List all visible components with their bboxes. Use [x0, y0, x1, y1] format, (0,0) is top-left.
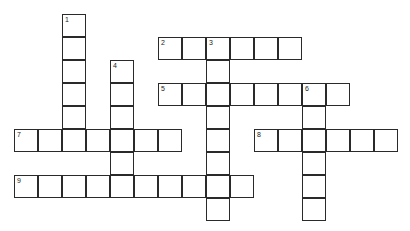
letter-input[interactable] [135, 130, 157, 151]
letter-input[interactable] [207, 176, 229, 197]
crossword-cell[interactable] [62, 175, 86, 198]
letter-input[interactable] [159, 38, 181, 59]
crossword-cell[interactable] [110, 106, 134, 129]
letter-input[interactable] [207, 107, 229, 128]
letter-input[interactable] [255, 130, 277, 151]
crossword-cell[interactable] [302, 129, 326, 152]
crossword-cell[interactable]: 1 [62, 14, 86, 37]
crossword-cell[interactable] [62, 83, 86, 106]
crossword-cell[interactable]: 2 [158, 37, 182, 60]
letter-input[interactable] [351, 130, 373, 151]
crossword-cell[interactable] [110, 175, 134, 198]
crossword-cell[interactable] [230, 175, 254, 198]
letter-input[interactable] [231, 38, 253, 59]
letter-input[interactable] [15, 176, 37, 197]
letter-input[interactable] [111, 107, 133, 128]
letter-input[interactable] [207, 61, 229, 82]
crossword-cell[interactable] [182, 37, 206, 60]
letter-input[interactable] [279, 130, 301, 151]
crossword-cell[interactable]: 5 [158, 83, 182, 106]
crossword-cell[interactable] [206, 106, 230, 129]
crossword-cell[interactable] [110, 152, 134, 175]
crossword-cell[interactable] [326, 83, 350, 106]
letter-input[interactable] [111, 176, 133, 197]
crossword-cell[interactable] [206, 83, 230, 106]
letter-input[interactable] [207, 153, 229, 174]
letter-input[interactable] [159, 84, 181, 105]
letter-input[interactable] [183, 38, 205, 59]
crossword-cell[interactable] [302, 152, 326, 175]
letter-input[interactable] [111, 130, 133, 151]
letter-input[interactable] [15, 130, 37, 151]
letter-input[interactable] [303, 199, 325, 220]
crossword-cell[interactable] [62, 60, 86, 83]
letter-input[interactable] [87, 130, 109, 151]
crossword-cell[interactable] [38, 175, 62, 198]
crossword-cell[interactable] [182, 175, 206, 198]
letter-input[interactable] [63, 38, 85, 59]
crossword-cell[interactable] [86, 175, 110, 198]
letter-input[interactable] [303, 130, 325, 151]
crossword-cell[interactable] [158, 129, 182, 152]
letter-input[interactable] [207, 38, 229, 59]
letter-input[interactable] [207, 199, 229, 220]
crossword-cell[interactable] [254, 37, 278, 60]
letter-input[interactable] [327, 130, 349, 151]
crossword-cell[interactable]: 4 [110, 60, 134, 83]
letter-input[interactable] [279, 84, 301, 105]
letter-input[interactable] [279, 38, 301, 59]
letter-input[interactable] [63, 176, 85, 197]
crossword-cell[interactable] [374, 129, 398, 152]
crossword-cell[interactable] [134, 129, 158, 152]
crossword-cell[interactable]: 6 [302, 83, 326, 106]
letter-input[interactable] [231, 176, 253, 197]
crossword-cell[interactable] [278, 129, 302, 152]
crossword-cell[interactable] [206, 60, 230, 83]
letter-input[interactable] [63, 61, 85, 82]
crossword-cell[interactable] [110, 83, 134, 106]
letter-input[interactable] [135, 176, 157, 197]
crossword-cell[interactable] [38, 129, 62, 152]
crossword-cell[interactable] [86, 129, 110, 152]
crossword-cell[interactable] [206, 198, 230, 221]
letter-input[interactable] [303, 176, 325, 197]
letter-input[interactable] [63, 15, 85, 36]
letter-input[interactable] [159, 176, 181, 197]
letter-input[interactable] [111, 84, 133, 105]
crossword-cell[interactable] [230, 83, 254, 106]
letter-input[interactable] [87, 176, 109, 197]
crossword-cell[interactable] [62, 129, 86, 152]
crossword-cell[interactable] [182, 83, 206, 106]
crossword-cell[interactable] [278, 37, 302, 60]
letter-input[interactable] [111, 153, 133, 174]
letter-input[interactable] [183, 84, 205, 105]
crossword-cell[interactable] [254, 83, 278, 106]
letter-input[interactable] [111, 61, 133, 82]
letter-input[interactable] [303, 153, 325, 174]
letter-input[interactable] [303, 84, 325, 105]
letter-input[interactable] [231, 84, 253, 105]
crossword-cell[interactable] [206, 175, 230, 198]
crossword-cell[interactable] [350, 129, 374, 152]
letter-input[interactable] [327, 84, 349, 105]
letter-input[interactable] [207, 130, 229, 151]
crossword-cell[interactable] [134, 175, 158, 198]
crossword-cell[interactable] [302, 198, 326, 221]
letter-input[interactable] [183, 176, 205, 197]
crossword-cell[interactable]: 9 [14, 175, 38, 198]
letter-input[interactable] [159, 130, 181, 151]
letter-input[interactable] [255, 38, 277, 59]
crossword-cell[interactable] [62, 106, 86, 129]
crossword-cell[interactable] [326, 129, 350, 152]
letter-input[interactable] [63, 130, 85, 151]
crossword-cell[interactable] [206, 129, 230, 152]
crossword-cell[interactable] [62, 37, 86, 60]
letter-input[interactable] [303, 107, 325, 128]
crossword-cell[interactable] [158, 175, 182, 198]
crossword-cell[interactable] [302, 106, 326, 129]
crossword-cell[interactable]: 7 [14, 129, 38, 152]
crossword-cell[interactable] [302, 175, 326, 198]
crossword-cell[interactable] [230, 37, 254, 60]
crossword-cell[interactable]: 8 [254, 129, 278, 152]
crossword-cell[interactable] [206, 152, 230, 175]
